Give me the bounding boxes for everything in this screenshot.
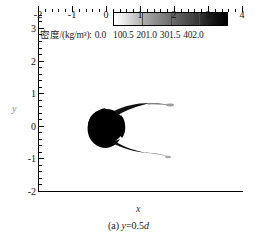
y-axis-title: y <box>12 103 16 114</box>
caption-prefix: (a) <box>108 220 119 231</box>
y-tick-label-0: 0 <box>31 121 36 132</box>
caption-equals: =0.5 <box>126 220 144 231</box>
upper-wake-tail <box>114 103 174 115</box>
lower-wake-tail <box>112 142 171 158</box>
figure-panel: 密度/(kg/m³): 0.0 100.5 201.0 301.5 402.0 … <box>0 0 257 246</box>
figure-caption: (a) y=0.5d <box>0 220 257 231</box>
y-tick-label-neg2: -2 <box>28 186 36 197</box>
y-tick-label-3: 3 <box>31 23 36 34</box>
y-tick-label-neg1: -1 <box>28 153 36 164</box>
y-tick-label-2: 2 <box>31 56 36 67</box>
y-tick-label-1: 1 <box>31 88 36 99</box>
density-field <box>38 12 243 192</box>
x-axis-title: x <box>136 203 140 214</box>
caption-unit: d <box>144 220 149 231</box>
